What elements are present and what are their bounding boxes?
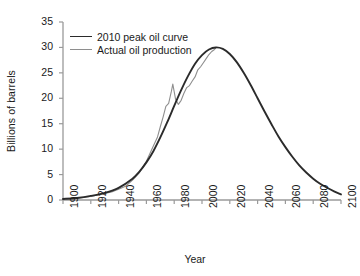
chart-figure: 05101520253035 1900192019401960198020002…	[0, 0, 360, 276]
legend-swatch-icon-actual-oil-production	[70, 49, 92, 50]
x-tick-label: 1980	[179, 185, 191, 208]
y-tick-label: 20	[27, 92, 53, 103]
legend-swatch-icon-peak-oil-curve	[70, 36, 92, 37]
y-tick-label: 0	[27, 194, 53, 205]
y-tick-label: 25	[27, 67, 53, 78]
y-tick-label: 10	[27, 143, 53, 154]
legend-item-actual-oil-production: Actual oil production	[70, 43, 192, 56]
legend-item-peak-oil-curve: 2010 peak oil curve	[70, 30, 192, 43]
x-tick-label: 2020	[235, 185, 247, 208]
legend-label-actual-oil-production: Actual oil production	[97, 44, 192, 56]
x-tick-label: 1940	[124, 185, 136, 208]
series-line-actual-oil-production	[63, 48, 216, 199]
x-tick-label: 2040	[263, 185, 275, 208]
x-axis-label-text: Year	[184, 253, 205, 265]
y-axis-label: Billions of barrels	[2, 36, 20, 186]
x-tick-label: 2080	[318, 185, 330, 208]
x-tick-label: 1900	[68, 185, 80, 208]
chart-legend: 2010 peak oil curve Actual oil productio…	[70, 30, 192, 56]
y-axis-label-text: Billions of barrels	[5, 70, 17, 152]
legend-label-peak-oil-curve: 2010 peak oil curve	[97, 31, 188, 43]
x-tick-label: 2000	[207, 185, 219, 208]
y-tick-label: 30	[27, 41, 53, 52]
x-axis-label: Year	[0, 253, 360, 265]
y-tick-label: 15	[27, 118, 53, 129]
y-tick-label: 5	[27, 169, 53, 180]
y-tick-label: 35	[27, 16, 53, 27]
series-line-2010-peak-oil-curve	[63, 47, 341, 199]
x-tick-label: 1920	[96, 185, 108, 208]
x-tick-label: 2060	[290, 185, 302, 208]
x-tick-label: 1960	[151, 185, 163, 208]
x-tick-label: 2100	[346, 185, 358, 208]
